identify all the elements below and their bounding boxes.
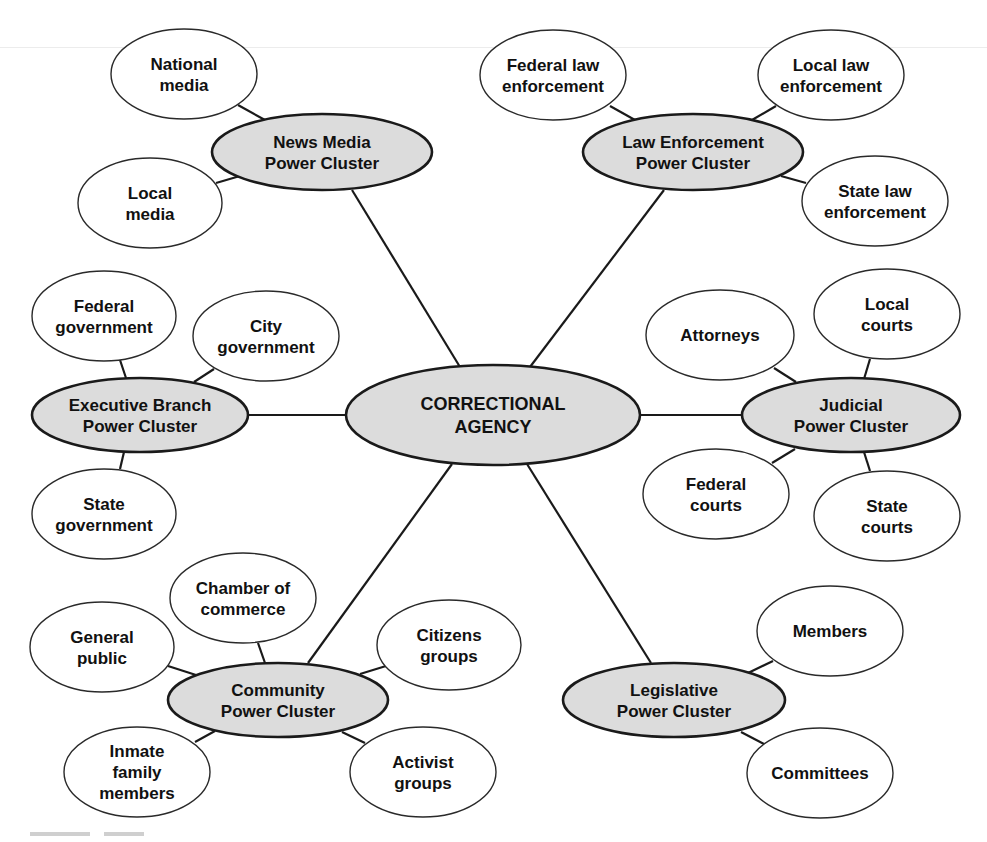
edge-judicial-0 [774,368,796,382]
leaf-node-state-courts-label: courts [861,518,913,537]
leaf-node-committees: Committees [747,728,893,818]
edge-judicial-3 [864,452,870,471]
leaf-node-chamber-of-commerce: Chamber ofcommerce [170,553,316,643]
cluster-node-legislative-shape [563,663,785,737]
leaf-node-local-law-enforcement-label: Local law [793,56,870,75]
edge-executive-branch-1 [194,369,214,382]
leaf-node-state-law-enforcement-shape [802,156,948,246]
leaf-node-local-media-label: Local [128,184,172,203]
spoke-news-media [352,190,460,367]
leaf-node-local-courts: Localcourts [814,269,960,359]
leaf-node-federal-government-shape [32,271,176,361]
leaf-node-state-government: Stategovernment [32,469,176,559]
leaf-node-citizens-groups: Citizensgroups [377,600,521,690]
leaf-node-city-government-label: City [250,317,283,336]
leaf-node-state-law-enforcement: State lawenforcement [802,156,948,246]
leaf-node-local-law-enforcement: Local lawenforcement [758,30,904,120]
edge-law-enforcement-0 [610,106,635,120]
leaf-node-general-public-label: General [70,628,133,647]
central-node-correctional-agency-label: AGENCY [454,417,531,437]
figure-caption-fragment [30,832,270,842]
leaf-node-city-government-shape [193,291,339,381]
leaf-node-inmate-family-members-label: members [99,784,175,803]
leaf-node-state-government-label: government [55,516,153,535]
leaf-node-federal-government: Federalgovernment [32,271,176,361]
power-cluster-diagram: CORRECTIONALAGENCYNews MediaPower Cluste… [0,0,987,842]
cluster-node-community-label: Power Cluster [221,702,336,721]
leaf-node-local-law-enforcement-shape [758,30,904,120]
edge-community-3 [195,731,215,742]
leaf-node-attorneys: Attorneys [646,290,794,380]
edge-news-media-0 [238,105,265,120]
edge-legislative-1 [741,732,764,744]
edge-executive-branch-2 [120,452,124,469]
leaf-node-activist-groups: Activistgroups [350,727,496,817]
edge-legislative-0 [748,661,773,673]
leaf-node-state-courts-label: State [866,497,908,516]
leaf-node-state-courts-shape [814,471,960,561]
edge-executive-branch-0 [120,360,126,378]
leaf-node-citizens-groups-label: Citizens [416,626,481,645]
edge-community-4 [342,732,365,743]
cluster-node-judicial-label: Power Cluster [794,417,909,436]
leaf-node-national-media-shape [111,29,257,119]
leaf-node-federal-law-enforcement-label: enforcement [502,77,604,96]
leaf-node-members-label: Members [793,622,868,641]
central-node-correctional-agency-shape [346,365,640,465]
cluster-node-judicial-label: Judicial [819,396,882,415]
cluster-node-legislative-label: Legislative [630,681,718,700]
leaf-node-local-law-enforcement-label: enforcement [780,77,882,96]
leaf-node-general-public: Generalpublic [30,602,174,692]
leaf-node-local-media-shape [78,158,222,248]
leaf-node-federal-government-label: government [55,318,153,337]
leaf-node-inmate-family-members: Inmatefamilymembers [64,727,210,817]
nodes: CORRECTIONALAGENCYNews MediaPower Cluste… [30,29,960,818]
leaf-node-federal-law-enforcement: Federal lawenforcement [480,30,626,120]
leaf-node-state-government-label: State [83,495,125,514]
leaf-node-citizens-groups-label: groups [420,647,478,666]
cluster-node-executive-branch-label: Power Cluster [83,417,198,436]
cluster-node-law-enforcement-label: Law Enforcement [622,133,764,152]
edge-community-0 [258,643,265,663]
edge-community-1 [168,666,196,675]
cluster-node-law-enforcement-shape [583,114,803,190]
cluster-node-community: CommunityPower Cluster [168,663,388,737]
leaf-node-local-media-label: media [125,205,175,224]
cluster-node-community-label: Community [231,681,325,700]
edge-law-enforcement-1 [752,106,776,120]
cluster-node-judicial: JudicialPower Cluster [742,378,960,452]
leaf-node-activist-groups-label: Activist [392,753,454,772]
leaf-node-local-courts-label: Local [865,295,909,314]
cluster-node-legislative: LegislativePower Cluster [563,663,785,737]
leaf-node-federal-courts-shape [643,449,789,539]
central-node-correctional-agency-label: CORRECTIONAL [421,394,566,414]
leaf-node-chamber-of-commerce-label: commerce [200,600,285,619]
edge-law-enforcement-2 [781,176,806,183]
leaf-node-city-government-label: government [217,338,315,357]
leaf-node-national-media: Nationalmedia [111,29,257,119]
cluster-node-news-media-label: News Media [273,133,371,152]
leaf-node-citizens-groups-shape [377,600,521,690]
leaf-node-state-law-enforcement-label: State law [838,182,912,201]
cluster-node-executive-branch: Executive BranchPower Cluster [32,378,248,452]
cluster-node-judicial-shape [742,378,960,452]
leaf-node-federal-government-label: Federal [74,297,134,316]
leaf-node-chamber-of-commerce-label: Chamber of [196,579,291,598]
leaf-node-state-government-shape [32,469,176,559]
leaf-node-local-courts-shape [814,269,960,359]
cluster-node-news-media-shape [212,114,432,190]
spoke-law-enforcement [530,190,664,367]
leaf-node-national-media-label: media [159,76,209,95]
leaf-node-federal-courts: Federalcourts [643,449,789,539]
leaf-node-local-courts-label: courts [861,316,913,335]
cluster-node-news-media-label: Power Cluster [265,154,380,173]
edge-judicial-1 [864,359,870,379]
cluster-node-law-enforcement-label: Power Cluster [636,154,751,173]
cluster-node-law-enforcement: Law EnforcementPower Cluster [583,114,803,190]
leaf-node-general-public-shape [30,602,174,692]
leaf-node-activist-groups-shape [350,727,496,817]
spoke-legislative [527,464,651,663]
leaf-node-committees-label: Committees [771,764,868,783]
edge-community-2 [360,666,386,674]
cluster-node-news-media: News MediaPower Cluster [212,114,432,190]
